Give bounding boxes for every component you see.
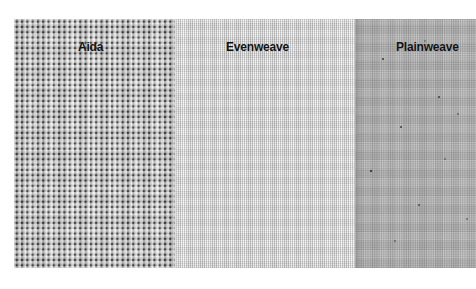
fabric-comparison-figure: Aida Evenweave Plainweave: [0, 0, 476, 289]
swatch-label-plainweave: Plainweave: [396, 40, 459, 54]
fabric-photograph: Aida Evenweave Plainweave: [14, 19, 476, 268]
fabric-swatch-plainweave: [355, 19, 476, 268]
swatch-label-aida: Aida: [78, 40, 103, 54]
swatch-label-evenweave: Evenweave: [226, 40, 289, 54]
fabric-swatch-aida: [14, 19, 175, 268]
fabric-flecks: [355, 19, 476, 268]
fabric-swatch-evenweave: [175, 19, 355, 268]
